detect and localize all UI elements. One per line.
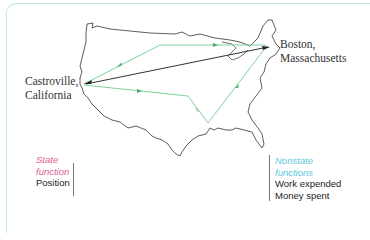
- legend-state-function: State function Position: [36, 154, 74, 189]
- origin-label-line1: Castroville,: [25, 75, 78, 89]
- arrow-head-icon: [137, 89, 142, 93]
- arrow-head-icon: [84, 80, 92, 84]
- arrow-head-icon: [117, 62, 122, 67]
- indirect-route-north: [84, 45, 266, 84]
- origin-label-line2: California: [25, 89, 78, 103]
- legend-item-money-spent: Money spent: [275, 190, 341, 202]
- legend-state-heading-line1: State: [36, 154, 70, 166]
- arrow-head-icon: [262, 46, 270, 50]
- legend-item-work-expended: Work expended: [275, 178, 341, 190]
- direct-route: [86, 47, 268, 84]
- legend-nonstate-heading-line1: Nonstate: [275, 155, 341, 167]
- legend-nonstate-functions: Nonstate functions Work expended Money s…: [269, 155, 341, 201]
- arrow-head-icon: [213, 43, 218, 47]
- legend-state-heading-line2: function: [36, 166, 70, 178]
- origin-label: Castroville, California: [25, 75, 78, 102]
- destination-label-line1: Boston,: [280, 38, 346, 52]
- legend-divider: [73, 163, 74, 196]
- destination-label: Boston, Massachusetts: [280, 38, 346, 65]
- legend-item-position: Position: [36, 177, 70, 189]
- destination-label-line2: Massachusetts: [280, 52, 346, 66]
- legend-nonstate-heading-line2: functions: [275, 167, 341, 179]
